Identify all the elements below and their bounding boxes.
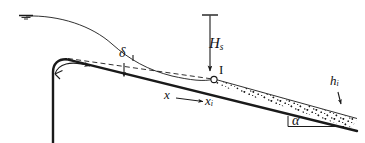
slope-angle-label: α	[292, 114, 299, 128]
boundary-layer-label: δ	[119, 46, 126, 60]
spillway-aeration-diagram: Hs I δ x xi hi α	[0, 0, 365, 143]
inception-distance-label: xi	[205, 94, 213, 109]
depth-pointer	[338, 92, 341, 104]
flow-direction-arrow	[55, 63, 90, 74]
diagram-canvas	[0, 0, 365, 143]
boundary-layer-edge	[68, 59, 214, 80]
inception-depth-label: hi	[330, 74, 339, 89]
inception-point-marker	[211, 76, 217, 82]
distance-label: x	[164, 88, 170, 101]
head-label: Hs	[209, 36, 223, 52]
distance-dimension-arrow	[176, 98, 203, 102]
inception-point-label: I	[219, 63, 223, 76]
